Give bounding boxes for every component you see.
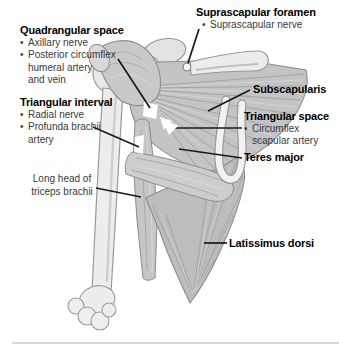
label-quadrangular-space: Quadrangular space • Axillary nerve • Po… xyxy=(20,24,124,86)
quadrangular-space-gap xyxy=(143,102,158,119)
list-item: • Axillary nerve xyxy=(20,37,124,49)
label-title: Quadrangular space xyxy=(20,24,124,37)
leader-line-suprascapular-foramen xyxy=(188,29,199,63)
label-long-head-triceps: Long head of triceps brachii xyxy=(22,173,102,199)
label-teres-major: Teres major xyxy=(244,151,304,164)
triangular-interval-gap xyxy=(134,135,144,154)
label-triangular-space: Triangular space • Circumflex scapular a… xyxy=(244,110,329,148)
label-title: Triangular space xyxy=(244,110,329,123)
bullet-icon: • xyxy=(244,123,252,148)
list-item: • Posterior circumflex humeral artery an… xyxy=(20,49,124,86)
bullet-icon: • xyxy=(202,19,210,31)
bullet-icon: • xyxy=(20,37,28,49)
bullet-icon: • xyxy=(20,49,28,86)
list-item: • Radial nerve xyxy=(20,109,113,121)
list-item: • Profunda brachii artery xyxy=(20,121,113,146)
label-latissimus-dorsi: Latissimus dorsi xyxy=(229,237,314,250)
clavicle-bone xyxy=(190,51,268,75)
anatomy-figure-shoulder-spaces: Quadrangular space • Axillary nerve • Po… xyxy=(0,0,339,348)
suprascapular-foramen-gap xyxy=(183,63,191,71)
label-title: Suprascapular foramen xyxy=(196,6,316,19)
bullet-icon: • xyxy=(20,121,28,146)
list-item: • Suprascapular nerve xyxy=(202,19,316,31)
label-triangular-interval: Triangular interval • Radial nerve • Pro… xyxy=(20,96,113,146)
label-suprascapular-foramen: Suprascapular foramen • Suprascapular ne… xyxy=(196,6,316,31)
label-subscapularis: Subscapularis xyxy=(253,83,326,96)
list-item: • Circumflex scapular artery xyxy=(244,123,329,148)
label-title: Triangular interval xyxy=(20,96,113,109)
bullet-icon: • xyxy=(20,109,28,121)
